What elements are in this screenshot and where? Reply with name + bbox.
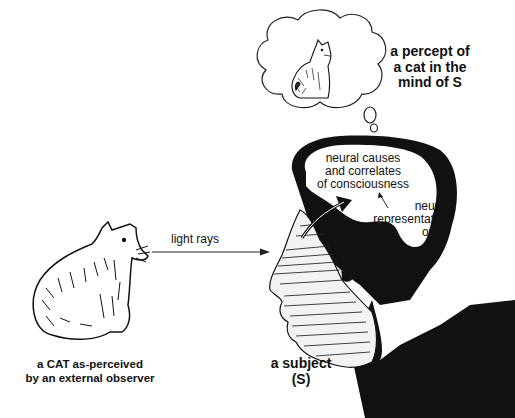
ncc-label: neural causes and correlates of consciou…: [308, 152, 418, 192]
representation-label-line: cat: [350, 239, 450, 252]
external-cat-label: a CAT as-perceived by an external observ…: [10, 358, 170, 385]
representation-label-line: neural: [350, 200, 450, 213]
external-cat-label-line: by an external observer: [10, 372, 170, 386]
ncc-label-line: of consciousness: [308, 178, 418, 191]
representation-label-line: representation: [350, 213, 450, 226]
light-rays-arrow: [152, 249, 270, 256]
percept-label: a percept of a cat in the mind of S: [382, 44, 478, 91]
percept-label-line: a percept of: [382, 44, 478, 60]
subject-label-line: a subject: [258, 356, 344, 372]
percept-label-line: a cat in the: [382, 60, 478, 76]
bubble-dot-large: [364, 107, 376, 123]
neural-representation-label: neural representation of a cat: [350, 200, 450, 252]
external-cat-label-line: a CAT as-perceived: [10, 358, 170, 372]
subject-label-line: (S): [258, 372, 344, 388]
light-rays-label: light rays: [160, 233, 230, 246]
subject-label: a subject (S): [258, 356, 344, 387]
percept-label-line: mind of S: [382, 75, 478, 91]
representation-label-line: of a: [350, 226, 450, 239]
external-cat-icon: [33, 222, 150, 339]
